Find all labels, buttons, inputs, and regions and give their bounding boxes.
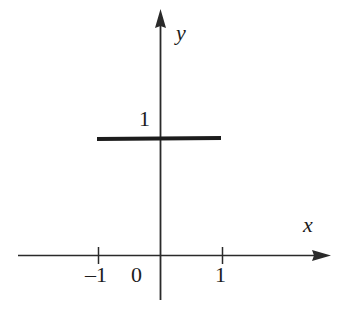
y-tick-label-one: 1 xyxy=(139,108,150,130)
y-axis-arrowhead xyxy=(155,9,166,28)
y-axis-label: y xyxy=(176,22,186,44)
x-axis-label: x xyxy=(303,214,313,236)
coordinate-plane-figure: y x 1 –1 0 1 xyxy=(0,0,341,310)
graph-canvas xyxy=(0,0,341,310)
x-tick-label-negative-one: –1 xyxy=(85,264,107,286)
function-segment-y-equals-one xyxy=(97,138,221,139)
x-axis-arrowhead xyxy=(312,250,331,261)
origin-label: 0 xyxy=(131,264,142,286)
x-tick-label-one: 1 xyxy=(215,264,226,286)
